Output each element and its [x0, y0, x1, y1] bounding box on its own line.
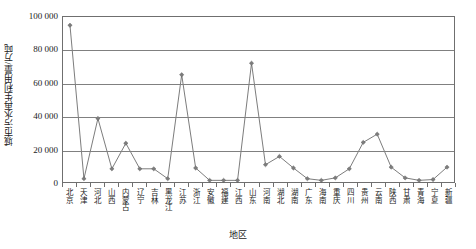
x-axis-tick — [259, 183, 260, 187]
x-axis-tick-label: 浙江 — [192, 188, 200, 203]
plot-area — [62, 16, 455, 183]
x-axis-tick — [160, 183, 161, 187]
x-axis-tick-label: 山西 — [107, 188, 115, 203]
x-axis-tick-labels: 北京天津河北山西内蒙古辽宁吉林黑龙江江苏浙江安徽福建江西山东河南湖北湖南广东海南… — [62, 188, 455, 224]
y-axis-tick-label: 100 000 — [16, 12, 58, 21]
y-axis-tick-label: 80 000 — [16, 45, 58, 54]
x-axis-tick-label: 河南 — [262, 188, 270, 203]
x-axis-tick — [62, 183, 63, 187]
data-point-marker[interactable] — [347, 167, 351, 171]
x-axis-tick — [244, 183, 245, 187]
x-axis-tick-label: 山东 — [248, 188, 256, 203]
x-axis-tick-label: 云南 — [374, 188, 382, 203]
data-point-marker[interactable] — [333, 176, 337, 180]
y-axis-title-text: 城市污水再生利用量/万吨 — [4, 44, 13, 146]
x-axis-tick-label: 湖南 — [290, 188, 298, 203]
x-axis-tick-label: 内蒙古 — [121, 188, 129, 211]
x-axis-tick — [371, 183, 372, 187]
chart-figure: 城市污水再生利用量/万吨 020 00040 00060 00080 00010… — [0, 0, 476, 249]
x-axis-tick-label: 黑龙江 — [163, 188, 171, 211]
x-axis-tick — [441, 183, 442, 187]
x-axis-tick — [202, 183, 203, 187]
x-axis-tick — [357, 183, 358, 187]
y-axis-tick-label: 60 000 — [16, 78, 58, 87]
x-axis-tick — [273, 183, 274, 187]
x-axis-tick-label: 辽宁 — [135, 188, 143, 203]
x-axis-tick — [230, 183, 231, 187]
x-axis-tick — [104, 183, 105, 187]
x-axis-tick — [343, 183, 344, 187]
x-axis-tick-label: 湖北 — [276, 188, 284, 203]
x-axis-tick-label: 宁夏 — [430, 188, 438, 203]
x-axis-tick-label: 安徽 — [206, 188, 214, 203]
x-axis-tick — [329, 183, 330, 187]
x-axis-tick — [301, 183, 302, 187]
x-axis-tick-label: 青海 — [416, 188, 424, 203]
x-axis-tick — [413, 183, 414, 187]
data-point-marker[interactable] — [375, 132, 379, 136]
gridline — [63, 50, 454, 51]
x-axis-tick-label: 江苏 — [177, 188, 185, 203]
x-axis-tick — [399, 183, 400, 187]
data-point-marker[interactable] — [361, 140, 365, 144]
y-axis-title: 城市污水再生利用量/万吨 — [0, 0, 16, 190]
data-point-marker[interactable] — [263, 163, 267, 167]
data-point-marker[interactable] — [319, 178, 323, 182]
x-axis-tick-label: 新疆 — [444, 188, 452, 203]
data-point-marker[interactable] — [82, 177, 86, 181]
series-line — [70, 25, 447, 180]
x-axis-tick-label: 北京 — [65, 188, 73, 203]
data-point-marker[interactable] — [68, 23, 72, 27]
x-axis-tick-label: 海南 — [318, 188, 326, 203]
y-axis-tick-label: 40 000 — [16, 112, 58, 121]
x-axis-tick — [427, 183, 428, 187]
x-axis-tick-label: 重庆 — [332, 188, 340, 203]
x-axis-ticks — [62, 183, 455, 187]
gridline — [63, 84, 454, 85]
data-point-marker[interactable] — [180, 73, 184, 77]
data-point-marker[interactable] — [138, 167, 142, 171]
x-axis-tick — [455, 183, 456, 187]
x-axis-tick — [174, 183, 175, 187]
x-axis-title: 地区 — [0, 228, 476, 241]
y-axis-tick-label: 20 000 — [16, 145, 58, 154]
x-axis-tick-label: 天津 — [79, 188, 87, 203]
y-axis-tick-labels: 020 00040 00060 00080 000100 000 — [16, 0, 58, 249]
y-axis-tick-label: 0 — [16, 179, 58, 188]
data-point-marker[interactable] — [110, 167, 114, 171]
x-axis-tick — [146, 183, 147, 187]
x-axis-tick-label: 广东 — [304, 188, 312, 203]
gridline — [63, 151, 454, 152]
x-axis-tick-label: 陕西 — [388, 188, 396, 203]
x-axis-tick — [315, 183, 316, 187]
x-axis-tick — [287, 183, 288, 187]
x-axis-tick — [118, 183, 119, 187]
x-axis-tick-label: 四川 — [346, 188, 354, 203]
x-axis-tick — [188, 183, 189, 187]
series-layer — [63, 17, 454, 182]
data-point-marker[interactable] — [235, 178, 239, 182]
data-point-marker[interactable] — [124, 141, 128, 145]
gridline — [63, 117, 454, 118]
x-axis-tick-label: 福建 — [220, 188, 228, 203]
data-point-marker[interactable] — [417, 178, 421, 182]
x-axis-tick — [76, 183, 77, 187]
x-axis-tick-label: 吉林 — [149, 188, 157, 203]
x-axis-tick — [90, 183, 91, 187]
x-axis-tick-label: 江西 — [234, 188, 242, 203]
data-point-marker[interactable] — [249, 61, 253, 65]
x-axis-tick — [216, 183, 217, 187]
x-axis-tick-label: 贵州 — [360, 188, 368, 203]
x-axis-tick — [385, 183, 386, 187]
x-axis-tick-label: 河北 — [93, 188, 101, 203]
x-axis-tick — [132, 183, 133, 187]
data-point-marker[interactable] — [221, 178, 225, 182]
x-axis-tick-label: 甘肃 — [402, 188, 410, 203]
